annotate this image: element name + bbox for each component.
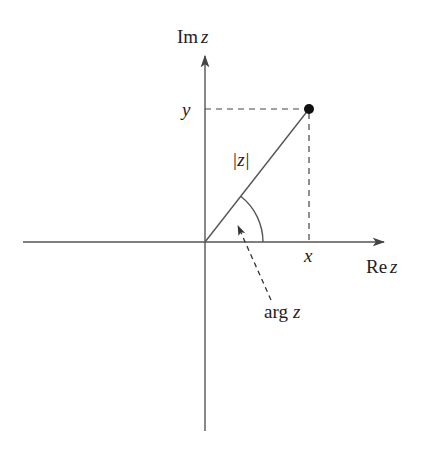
argand-diagram: Imz y |z| x Rez argz [0, 0, 429, 454]
argument-pointer-arrow [238, 226, 271, 300]
imaginary-axis-label: Imz [177, 26, 209, 47]
real-axis-label: Rez [366, 256, 398, 277]
argument-label: argz [264, 301, 301, 322]
x-label: x [303, 245, 313, 266]
modulus-label: |z| [232, 149, 250, 170]
point-z [304, 104, 314, 114]
argument-arc [241, 196, 263, 242]
y-label: y [180, 99, 191, 120]
modulus-line [205, 109, 309, 242]
